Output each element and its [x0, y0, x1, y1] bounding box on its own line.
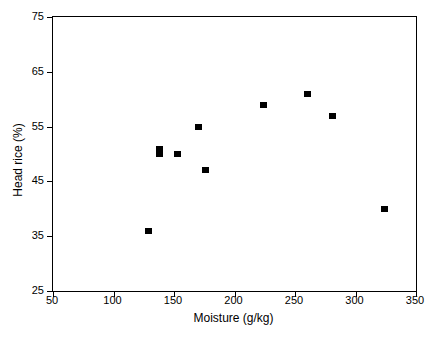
y-axis-tick-label: 25 — [18, 284, 44, 296]
data-point — [145, 228, 152, 234]
x-axis-tick-label: 200 — [214, 294, 254, 306]
y-axis-tick — [47, 291, 53, 292]
data-point — [260, 102, 267, 108]
y-axis-tick-label: 45 — [18, 174, 44, 186]
data-point — [156, 151, 163, 157]
y-axis-title: Head rice (%) — [11, 80, 25, 240]
y-axis-tick-label: 65 — [18, 65, 44, 77]
x-axis-tick-label: 350 — [395, 294, 435, 306]
data-point — [381, 206, 388, 212]
y-axis-tick-label: 75 — [18, 10, 44, 22]
x-axis-tick-label: 250 — [274, 294, 314, 306]
x-axis-tick-label: 150 — [153, 294, 193, 306]
y-axis-tick — [47, 181, 53, 182]
y-axis-tick — [47, 236, 53, 237]
x-axis-title: Moisture (g/kg) — [52, 311, 415, 325]
y-axis-tick-label: 55 — [18, 120, 44, 132]
plot-area — [52, 16, 417, 292]
y-axis-tick — [47, 72, 53, 73]
x-axis-tick-label: 300 — [335, 294, 375, 306]
data-point — [304, 91, 311, 97]
scatter-chart-figure: Moisture (g/kg) Head rice (%) 5010015020… — [0, 0, 436, 339]
data-point — [195, 124, 202, 130]
y-axis-tick-label: 35 — [18, 229, 44, 241]
y-axis-tick — [47, 127, 53, 128]
y-axis-tick — [47, 17, 53, 18]
x-axis-tick-label: 100 — [93, 294, 133, 306]
data-point — [202, 167, 209, 173]
data-point — [329, 113, 336, 119]
data-point — [174, 151, 181, 157]
